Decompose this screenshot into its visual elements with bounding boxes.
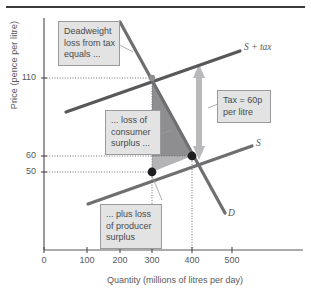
y-axis-label: Price (pence per litre) [9,5,19,125]
x-tick-100: 100 [74,255,100,265]
no-tax-equilibrium-marker [188,152,197,161]
callout-consumer-line-3: surplus ... [111,138,155,150]
x-tick-400: 400 [179,255,205,265]
callout-consumer-surplus: ... loss of consumer surplus ... [105,110,161,155]
supply-plus-tax-label: S + tax [244,42,272,52]
callout-producer-surplus: ... plus loss of producer surplus [100,204,162,249]
x-tick-500: 500 [219,255,245,265]
y-tick-110: 110 [12,72,36,82]
callout-producer-line-1: ... plus loss [106,209,156,221]
callout-consumer-line-2: consumer [111,127,155,139]
callout-deadweight-line-2: loss from tax [64,38,114,50]
callout-deadweight-line-3: equals ... [64,49,114,61]
tax-equilibrium-marker [149,75,155,81]
callout-producer-line-2: of producer [106,221,156,233]
y-tick-60: 60 [12,150,36,160]
callout-tax: Tax = 60p per litre [217,90,271,123]
y-tick-50: 50 [12,166,36,176]
x-tick-300: 300 [139,255,165,265]
x-tick-0: 0 [31,255,57,265]
supply-label: S [256,138,261,148]
figure-container: Price (pence per litre) Quantity (millio… [0,0,311,292]
callout-deadweight-loss: Deadweight loss from tax equals ... [58,21,120,66]
callout-consumer-line-1: ... loss of [111,115,155,127]
producer-price-marker [148,168,157,177]
x-axis-label: Quantity (millions of litres per day) [44,275,306,285]
callout-tax-line-2: per litre [223,107,265,119]
leader-line-deadweight [118,44,133,52]
callout-tax-line-1: Tax = 60p [223,95,265,107]
demand-label: D [228,208,235,218]
x-tick-200: 200 [107,255,133,265]
callout-producer-line-3: surplus [106,232,156,244]
tax-wedge-arrow [193,64,205,160]
callout-deadweight-line-1: Deadweight [64,26,114,38]
